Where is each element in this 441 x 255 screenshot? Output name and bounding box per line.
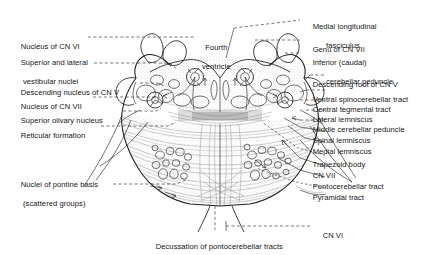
leader-lines-bottom (215, 206, 310, 231)
label-fourth-ventricle: Fourth ventricle (182, 34, 242, 80)
fourth-ventricle-line1: Fourth (205, 43, 227, 52)
label-text-line1: Nuclei of pontine basis (21, 180, 99, 189)
label-pyramidal-tract: Pyramidal tract (304, 184, 364, 212)
label-cn-vi-bottom: CN VI (314, 222, 343, 250)
label-nuclei-pontine-basis: Nuclei of pontine basis (scattered group… (12, 171, 98, 227)
cn-vi-rootlets (198, 206, 244, 232)
label-reticular-formation: Reticular formation (12, 122, 85, 150)
label-text: Reticular formation (21, 131, 86, 140)
label-text: Pyramidal tract (313, 193, 364, 202)
label-text-line1: Inferior (caudal) (313, 58, 367, 67)
label-text-line2: (scattered groups) (12, 199, 98, 208)
label-text: Decussation of pontocerebellar tracts (156, 242, 283, 251)
label-decussation-pontocerebellar-tracts: Decussation of pontocerebellar tracts (125, 233, 305, 255)
label-text: CN VI (323, 231, 344, 240)
fourth-ventricle-line2: ventricle (202, 62, 231, 71)
label-text-line1: Superior and lateral (21, 58, 88, 67)
label-text-line1: Medial longitudinal (313, 22, 377, 31)
